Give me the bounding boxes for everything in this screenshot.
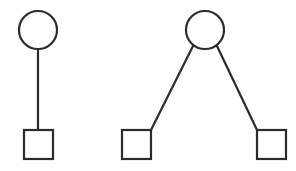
edge-right-circle-to-left-child [151,45,194,130]
node-circle-parent-right[interactable] [186,11,224,49]
diagram-group-right [122,11,286,159]
diagram-group-left [19,11,57,159]
node-square-child-right-left[interactable] [122,130,151,159]
node-square-child-right-right[interactable] [257,130,286,159]
diagram-svg [0,0,296,171]
edge-right-circle-to-right-child [217,45,258,130]
diagram-canvas [0,0,296,171]
node-square-child-left[interactable] [24,130,53,159]
node-circle-parent-left[interactable] [19,11,57,49]
